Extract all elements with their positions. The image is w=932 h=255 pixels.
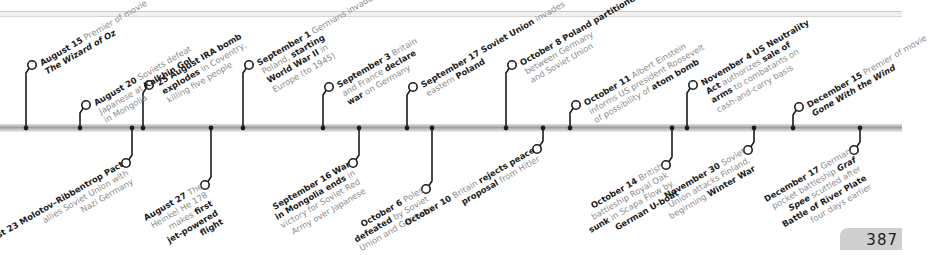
connector-line [570,107,574,128]
connector-line [668,128,672,163]
connector-line [750,128,754,148]
event-marker-circle [409,83,417,91]
event-marker-circle [325,83,333,91]
tick-dot [504,126,509,131]
connector-line [687,87,691,128]
connector-line [793,109,797,128]
connector-line [856,128,860,148]
connector-line [355,128,359,161]
connector-line [407,89,411,128]
event-marker-circle [508,61,516,69]
tick-dot [321,126,326,131]
connector-line [207,128,211,183]
connector-line [323,89,327,128]
tick-dot [541,126,546,131]
tick-dot [78,126,83,131]
page-number: 387 [840,228,902,250]
tick-dot [685,126,690,131]
tick-dot [405,126,410,131]
connector-line [428,128,432,187]
event-marker-circle [795,103,803,111]
connector-line [128,128,132,161]
tick-dot [752,126,757,131]
connector-line [506,67,510,128]
tick-dot [670,126,675,131]
event-marker-circle [28,61,36,69]
connector-line [26,67,30,128]
event-marker-circle [689,81,697,89]
tick-dot [241,126,246,131]
event-marker-circle [572,101,580,109]
tick-dot [209,126,214,131]
tick-dot [430,126,435,131]
connector-line [539,128,543,147]
connector-line [80,107,84,128]
event-marker-circle [82,101,90,109]
connector-line [243,67,247,128]
tick-dot [791,126,796,131]
tick-dot [24,126,29,131]
tick-dot [141,126,146,131]
event-marker-circle [245,61,253,69]
tick-dot [357,126,362,131]
tick-dot [568,126,573,131]
tick-dot [858,126,863,131]
tick-dot [130,126,135,131]
